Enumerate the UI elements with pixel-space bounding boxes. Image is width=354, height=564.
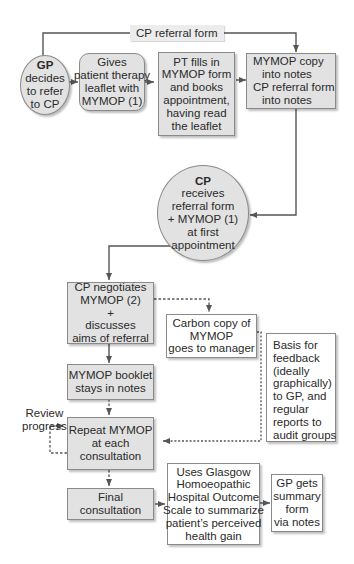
cp-negotiates-node: CP negotiates MYMOP (2) + discusses aims… [67, 282, 154, 344]
node-text-line: health gain [185, 530, 241, 543]
basis-feedback-node: Basis for feedback (ideally graphically)… [266, 333, 336, 442]
final-consultation-node: Final consultation [67, 488, 154, 520]
node-text-line: appointment, [163, 94, 230, 107]
connector-negotiates-to-carbon-copy [154, 299, 209, 312]
node-text-line: (ideally [273, 365, 309, 378]
node-text-line: Final [98, 491, 123, 504]
node-text-line: decides [25, 72, 65, 85]
node-text-line: to refer [27, 85, 63, 98]
node-text-line: aims of referral [72, 332, 149, 345]
node-text-line: consultation [80, 504, 141, 517]
node-text-line: audit groups [273, 429, 336, 442]
mymop-referral-flow-diagram: CP referral form GP decides to refer to … [0, 0, 354, 564]
node-text-line: having read [166, 107, 226, 120]
carbon-copy-node: Carbon copy of MYMOP goes to manager [166, 314, 257, 358]
node-text-line: consultation [80, 450, 141, 463]
node-text-line: Carbon copy of [173, 317, 251, 330]
node-text-line: + [107, 307, 114, 320]
label-line: Review [22, 407, 67, 420]
node-text-line: Gives [97, 56, 126, 69]
gives-leaflet-node: Gives patient therapy leaflet with MYMOP… [79, 53, 145, 111]
node-text-line: feedback [273, 352, 320, 365]
node-text-line: MYMOP (2) [80, 294, 141, 307]
node-text-line: at each [92, 437, 130, 450]
node-text-line: Repeat MYMOP [69, 424, 153, 437]
node-text-line: CP negotiates [74, 281, 146, 294]
node-text-line: to GP, and [273, 390, 327, 403]
node-text-line: Hospital Outcome [168, 491, 259, 504]
node-text-line: GP gets [276, 477, 317, 490]
node-text-line: summary [273, 490, 320, 503]
repeat-mymop-node: Repeat MYMOP at each consultation [67, 417, 154, 470]
node-text-line: into notes [253, 68, 312, 81]
pt-fills-node: PT fills in MYMOP form and books appoint… [158, 52, 235, 136]
node-text-line: regular [273, 403, 309, 416]
node-text-line: MYMOP copy [253, 55, 324, 68]
connector-copy-notes-to-cp-receives [250, 108, 296, 215]
node-text-line: goes to manager [168, 342, 254, 355]
node-text-line: at first [187, 226, 218, 239]
node-text-line: stays in notes [75, 382, 145, 395]
node-text-line: leaflet with [85, 82, 139, 95]
node-text-line: via notes [274, 516, 320, 529]
label-line: progress [22, 420, 67, 433]
booklet-node: MYMOP booklet stays in notes [67, 364, 154, 400]
node-text-line: appointment [171, 239, 234, 252]
node-text-line: reports to [273, 416, 322, 429]
node-text-line: MYMOP form [162, 68, 231, 81]
node-text-line: the leaflet [172, 120, 222, 133]
node-title: GP [37, 59, 54, 72]
node-text-line: CP referral form [253, 81, 335, 94]
node-text-line: Uses Glasgow [176, 466, 250, 479]
review-progress-label: Review progress [22, 407, 67, 433]
node-text-line: referral form [172, 200, 235, 213]
node-text-line: + MYMOP (1) [168, 213, 238, 226]
node-text-line: MYMOP [190, 330, 233, 343]
node-text-line: PT fills in [173, 56, 219, 69]
node-text-line: MYMOP (1) [82, 95, 143, 108]
node-text-line: graphically) [273, 377, 332, 390]
node-text-line: into notes [253, 94, 312, 107]
node-text-line: Homoeopathic [176, 478, 250, 491]
gp-decides-node: GP decides to refer to CP [20, 55, 70, 115]
node-text-line: Basis for [273, 339, 318, 352]
node-title: CP [195, 175, 211, 188]
node-text-line: discusses [85, 319, 136, 332]
gp-summary-node: GP gets summary form via notes [271, 474, 323, 532]
copy-into-notes-node: MYMOP copy into notes CP referral form i… [246, 53, 336, 109]
cp-referral-form-label: CP referral form [130, 25, 224, 41]
glasgow-scale-node: Uses Glasgow Homoeopathic Hospital Outco… [167, 463, 260, 545]
cp-receives-node: CP receives referral form + MYMOP (1) at… [157, 165, 249, 261]
node-text-line: Scale to summarize [163, 504, 264, 517]
node-text-line: patient’s perceived [166, 517, 262, 530]
node-text-line: and books [170, 81, 223, 94]
node-text-line: form [286, 503, 309, 516]
node-text-line: patient therapy [74, 69, 150, 82]
node-text-line: receives [182, 187, 225, 200]
node-text-line: MYMOP booklet [69, 369, 153, 382]
node-text-line: to CP [31, 98, 60, 111]
